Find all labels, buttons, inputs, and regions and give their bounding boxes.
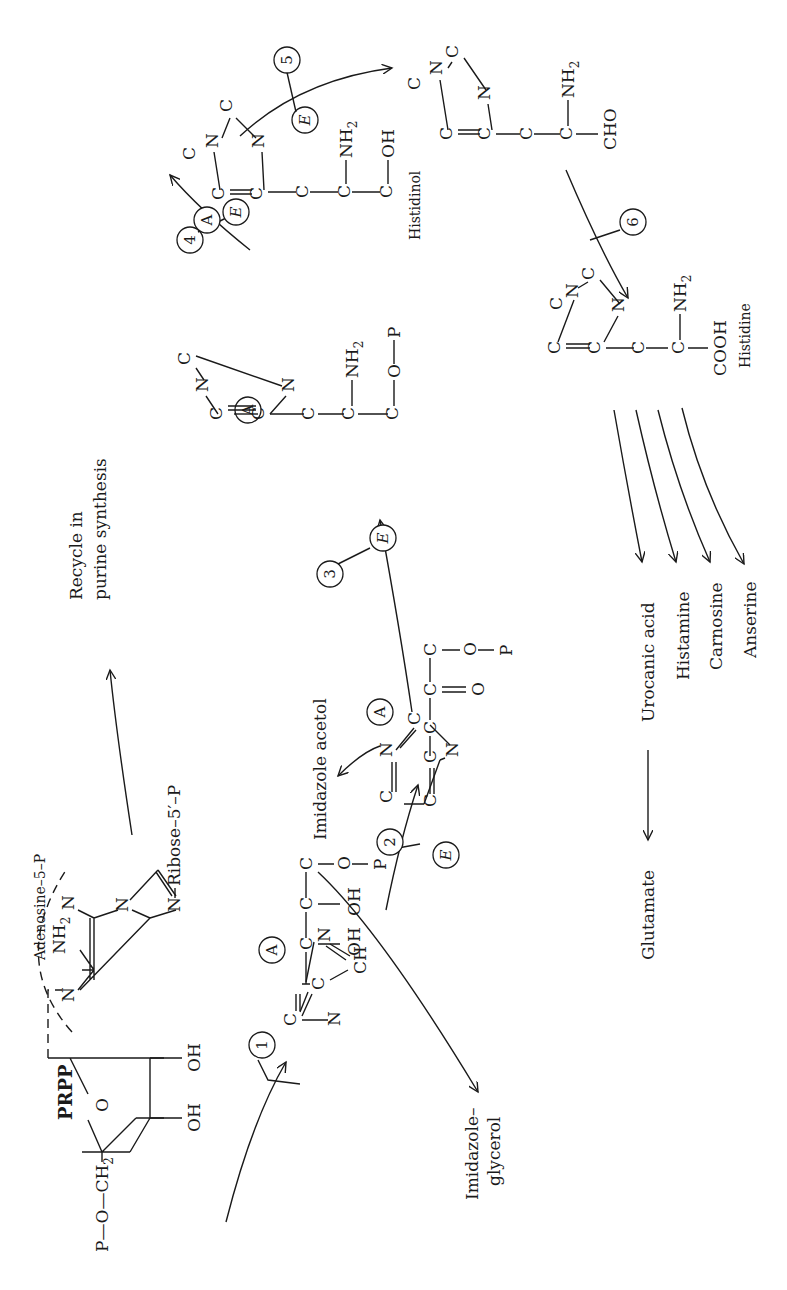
svg-text:CHO: CHO [600,108,620,150]
svg-text:C: C [208,187,228,200]
svg-text:N: N [608,297,628,312]
svg-text:C: C [216,99,236,112]
svg-text:E: E [374,532,392,544]
step-3: 3 E [317,520,412,712]
svg-text:6: 6 [624,217,642,227]
recycle-line1: Recycle in [66,511,86,600]
svg-text:A: A [198,214,216,226]
svg-text:C: C [404,77,424,90]
svg-text:O: O [460,642,480,656]
svg-text:C: C [382,407,402,420]
imidazole-glycerol-phosphate: A C N C CH N C C C OH OH O P Imidazole– … [259,856,504,1200]
svg-text:glycerol: glycerol [484,1117,504,1186]
svg-text:C: C [376,790,396,803]
svg-text:C: C [442,45,462,58]
svg-text:C: C [556,127,576,140]
ribose-bonds [82,1118,136,1162]
svg-text:N: N [324,1011,344,1026]
svg-text:P: P [370,859,390,870]
svg-text:C: C [298,407,318,420]
svg-text:NH2: NH2 [336,121,360,158]
svg-text:C: C [420,794,440,807]
adenine-n9: N [164,897,184,912]
acetol-arrow [338,746,380,776]
oh-1: OH [184,1103,204,1132]
svg-text:C: C [578,267,598,280]
svg-text:N: N [192,377,212,392]
svg-text:N: N [442,742,462,757]
histidine-fates: Urocanic acid Histamine Carnosine Anseri… [614,408,760,960]
svg-text:C: C [546,297,566,310]
svg-text:C: C [179,147,199,160]
ribose-5p-label: Ribose–5′–P [164,785,184,886]
oh-2: OH [184,1043,204,1072]
svg-text:C: C [338,407,358,420]
adenine-bonds [78,870,176,990]
step-1: 1 [226,1032,300,1222]
recycle-arrow [110,670,132,835]
svg-text:C: C [292,185,312,198]
step-1-arrow [226,1062,286,1222]
adenine-n3: N [58,895,78,910]
svg-text:C: C [420,643,440,656]
svg-text:3: 3 [321,569,339,579]
phosphate-chain: P—O—CH2 [92,1157,116,1252]
svg-text:C: C [174,352,194,365]
svg-text:NH2: NH2 [342,341,366,378]
adenine-nh2: NH2 [49,917,73,954]
svg-text:OH: OH [378,129,398,158]
svg-text:O: O [334,856,354,870]
svg-text:5: 5 [278,55,296,65]
product-glutamate: Glutamate [638,870,658,960]
svg-text:P: P [384,327,404,338]
svg-text:C: C [296,937,316,950]
pathway-diagram: PRPP P—O—CH2 O OH OH Adenosine–5–P N N N… [0,0,787,1290]
imidazole-acetol-phosphate: A C N C C N C C C C O O P Imidazole acet… [310,642,516,840]
svg-text:Imidazole–: Imidazole– [462,1108,482,1200]
svg-text:C: C [296,857,316,870]
svg-text:C: C [668,341,688,354]
svg-text:OH: OH [344,927,364,956]
step-1-number: 1 [253,1040,271,1050]
product-histamine: Histamine [673,591,693,680]
svg-text:A: A [263,944,281,956]
svg-text:NH2: NH2 [670,275,694,312]
histidine: C N C N C C C C NH2 COOH Histidine [544,267,753,376]
histidinal: C N C N C C C C NH2 CHO [404,45,620,150]
svg-text:C: C [628,341,648,354]
svg-text:C: C [334,185,354,198]
svg-text:O: O [468,682,488,696]
ribose-oxygen: O [92,1098,112,1112]
svg-text:C: C [280,1013,300,1026]
svg-text:N: N [314,927,334,942]
svg-text:N: N [278,377,298,392]
histidine-label: Histidine [737,303,753,368]
svg-text:C: C [420,721,440,734]
svg-text:N: N [376,742,396,757]
svg-text:Imidazole acetol: Imidazole acetol [310,698,330,840]
svg-text:C: C [376,185,396,198]
svg-text:E: E [437,849,455,861]
adenosine-label: Adenosine–5–P [32,854,48,961]
product-anserine: Anserine [740,581,760,659]
histidinol-label: Histidinol [407,170,423,240]
prpp-label: PRPP [55,1064,76,1120]
recycle-line2: purine synthesis [90,458,110,600]
svg-text:P: P [496,645,516,656]
svg-text:C: C [516,127,536,140]
svg-text:C: C [420,683,440,696]
adenine-n1: N [58,987,78,1002]
svg-text:2: 2 [381,837,399,847]
svg-text:A: A [371,706,389,718]
svg-text:C: C [436,127,456,140]
svg-text:N: N [426,60,446,75]
svg-text:O: O [384,364,404,378]
svg-text:C: C [206,407,226,420]
svg-text:C: C [296,897,316,910]
histidinol-phosphate: A C N C N C C C C NH2 O P [174,327,404,423]
svg-text:N: N [562,283,582,298]
svg-text:E: E [296,114,314,126]
prpp-group: PRPP P—O—CH2 O OH OH Adenosine–5–P N N N… [32,458,204,1252]
svg-text:N: N [248,133,268,148]
svg-text:COOH: COOH [710,320,730,376]
